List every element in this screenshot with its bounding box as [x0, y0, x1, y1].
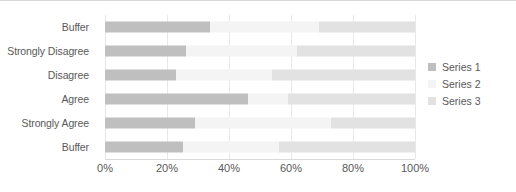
x-tick-label: 40% — [218, 162, 240, 174]
plot-area — [105, 15, 415, 159]
bar-row — [105, 111, 415, 135]
bar-row — [105, 87, 415, 111]
bar-segment[interactable] — [105, 46, 186, 57]
x-tick-label: 20% — [156, 162, 178, 174]
x-tick-label: 0% — [97, 162, 113, 174]
bar-segment[interactable] — [176, 70, 272, 81]
bar-segment[interactable] — [248, 94, 288, 105]
bar-row — [105, 135, 415, 159]
bar-track — [105, 142, 415, 153]
legend-swatch-icon — [428, 97, 436, 105]
x-axis-labels: 0%20%40%60%80%100% — [105, 162, 415, 180]
legend-label: Series 3 — [442, 95, 481, 107]
category-label: Strongly Agree — [0, 111, 96, 135]
bar-segment[interactable] — [297, 46, 415, 57]
bar-segment[interactable] — [105, 94, 248, 105]
category-label: Buffer — [0, 135, 96, 159]
bar-segment[interactable] — [319, 22, 415, 33]
bar-track — [105, 22, 415, 33]
bar-segment[interactable] — [186, 46, 298, 57]
bar-segment[interactable] — [105, 142, 183, 153]
bar-track — [105, 94, 415, 105]
bar-segment[interactable] — [279, 142, 415, 153]
x-tick-label: 60% — [280, 162, 302, 174]
bar-segment[interactable] — [288, 94, 415, 105]
bar-track — [105, 46, 415, 57]
legend-label: Series 1 — [442, 61, 481, 73]
bar-segment[interactable] — [210, 22, 319, 33]
chart-legend: Series 1Series 2Series 3 — [428, 61, 481, 107]
category-label: Buffer — [0, 15, 96, 39]
bar-segment[interactable] — [195, 118, 331, 129]
legend-swatch-icon — [428, 80, 436, 88]
x-axis-line — [105, 159, 415, 160]
bar-track — [105, 118, 415, 129]
legend-item[interactable]: Series 2 — [428, 78, 481, 90]
bar-track — [105, 70, 415, 81]
stacked-bar-chart: Buffer Strongly Disagree Disagree Agree … — [0, 0, 516, 192]
legend-item[interactable]: Series 1 — [428, 61, 481, 73]
category-label: Agree — [0, 87, 96, 111]
bar-row — [105, 15, 415, 39]
x-tick-label: 100% — [401, 162, 429, 174]
legend-swatch-icon — [428, 63, 436, 71]
bar-segment[interactable] — [105, 118, 195, 129]
legend-item[interactable]: Series 3 — [428, 95, 481, 107]
bar-segment[interactable] — [105, 70, 176, 81]
category-label: Disagree — [0, 63, 96, 87]
bar-segment[interactable] — [272, 70, 415, 81]
bar-segment[interactable] — [331, 118, 415, 129]
legend-label: Series 2 — [442, 78, 481, 90]
bar-segment[interactable] — [105, 22, 210, 33]
bar-segment[interactable] — [183, 142, 279, 153]
category-label: Strongly Disagree — [0, 39, 96, 63]
gridline — [415, 15, 416, 159]
bar-row — [105, 63, 415, 87]
x-tick-label: 80% — [342, 162, 364, 174]
category-axis: Buffer Strongly Disagree Disagree Agree … — [0, 15, 96, 159]
bar-rows — [105, 15, 415, 159]
bar-row — [105, 39, 415, 63]
